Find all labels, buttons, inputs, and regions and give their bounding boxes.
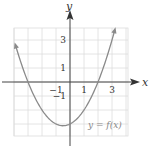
y-axis-label: y	[65, 0, 73, 13]
function-label: y = f(x)	[87, 120, 122, 130]
y-tick-label: 3	[60, 35, 66, 45]
y-tick-label: 1	[60, 63, 66, 73]
x-tick-label: 3	[109, 85, 115, 95]
function-graph: x y −11331−1 y = f(x)	[0, 0, 154, 151]
x-tick-label: 1	[81, 85, 87, 95]
y-tick-label: −1	[53, 91, 66, 101]
x-axis-label: x	[142, 76, 149, 89]
curve-arrow-icon	[14, 42, 19, 48]
